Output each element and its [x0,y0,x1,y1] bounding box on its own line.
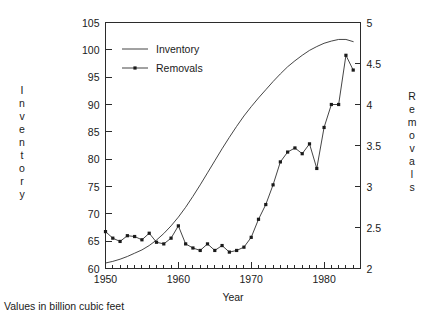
data-point-marker [242,246,245,249]
data-point-marker [264,203,267,206]
axis-title-char: s [409,181,414,193]
data-point-marker [235,249,238,252]
data-point-marker [162,242,165,245]
axis-title-char: m [408,116,417,128]
data-point-marker [111,237,114,240]
data-point-marker [337,103,340,106]
data-point-marker [140,238,143,241]
data-point-marker [315,167,318,170]
x-axis-tick-label: 1970 [240,273,264,285]
data-point-marker [330,103,333,106]
data-point-marker [279,160,282,163]
data-point-marker [118,240,121,243]
left-axis-tick-label: 100 [82,44,100,56]
left-axis-tick-label: 65 [88,235,100,247]
axis-title-char: y [19,188,25,200]
data-point-marker [133,235,136,238]
legend-swatch-marker [133,66,136,69]
data-point-marker [220,244,223,247]
left-axis-tick-label: 95 [88,71,100,83]
data-point-marker [271,183,274,186]
x-axis-tick-label: 1960 [167,273,191,285]
right-axis-tick-label: 2.5 [367,222,382,234]
axis-title-char: R [408,90,416,102]
axis-title-char: t [21,149,24,161]
axis-title-char: v [19,110,25,122]
left-axis-tick-label: 85 [88,126,100,138]
data-point-marker [126,234,129,237]
data-point-marker [352,68,355,71]
data-point-marker [286,150,289,153]
left-axis-tick-label: 90 [88,99,100,111]
data-point-marker [191,246,194,249]
axis-title-char: l [411,168,413,180]
axis-title-char: o [19,162,25,174]
data-point-marker [169,237,172,240]
right-axis-tick-label: 5 [367,17,373,29]
right-axis-tick-label: 3 [367,181,373,193]
data-point-marker [301,152,304,155]
axis-title-char: a [409,155,415,167]
right-axis-tick-label: 4.5 [367,58,382,70]
axis-title-char: e [409,103,415,115]
axis-title-char: n [19,136,25,148]
data-point-marker [148,232,151,235]
x-axis-title: Year [222,291,244,303]
right-axis-tick-label: 4 [367,99,373,111]
axis-title-char: I [21,84,24,96]
data-point-marker [344,54,347,57]
legend-label: Inventory [156,43,200,55]
data-point-marker [293,146,296,149]
axis-title-char: o [409,129,415,141]
left-axis-tick-label: 80 [88,153,100,165]
data-point-marker [257,218,260,221]
left-axis-tick-label: 70 [88,208,100,220]
data-point-marker [177,224,180,227]
legend-label: Removals [156,62,203,74]
right-axis-tick-label: 2 [367,263,373,275]
data-point-marker [155,241,158,244]
data-point-marker [213,249,216,252]
data-point-marker [308,142,311,145]
x-axis-tick-label: 1980 [312,273,336,285]
axis-title-char: e [19,123,25,135]
data-point-marker [104,230,107,233]
data-point-marker [228,251,231,254]
data-point-marker [206,242,209,245]
axis-title-char: r [20,175,24,187]
chart-background [0,0,437,323]
data-point-marker [250,236,253,239]
right-axis-tick-label: 3.5 [367,140,382,152]
data-point-marker [199,249,202,252]
left-axis-tick-label: 60 [88,263,100,275]
left-axis-tick-label: 105 [82,17,100,29]
left-axis-tick-label: 75 [88,181,100,193]
data-point-marker [184,242,187,245]
chart-caption: Values in billion cubic feet [4,300,124,312]
axis-title-char: n [19,97,25,109]
axis-title-char: v [409,142,415,154]
chart-figure: 1950196019701980 6065707580859095100105 … [0,0,437,323]
data-point-marker [322,126,325,129]
